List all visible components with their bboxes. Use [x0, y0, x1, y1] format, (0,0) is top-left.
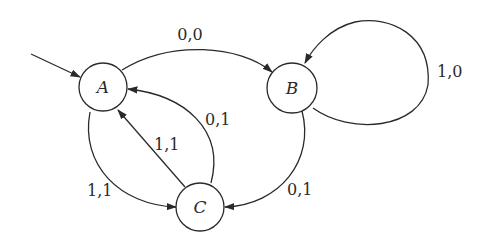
- state-a: A: [79, 63, 127, 111]
- label-a-to-c: 1,1: [87, 181, 112, 200]
- state-b: B: [267, 63, 317, 113]
- initial-arrow: [31, 54, 80, 77]
- label-b-to-c: 0,1: [287, 180, 312, 199]
- edge-a-to-b: [122, 50, 272, 72]
- label-c-to-a-outer: 0,1: [205, 110, 230, 129]
- label-b-self-loop: 1,0: [437, 62, 462, 81]
- state-a-label: A: [95, 77, 109, 97]
- state-b-label: B: [285, 78, 299, 98]
- edge-b-self-loop: [305, 21, 428, 125]
- state-c-label: C: [193, 197, 206, 217]
- label-a-to-b: 0,0: [177, 25, 202, 44]
- state-c: C: [176, 183, 224, 231]
- label-c-to-a-straight: 1,1: [154, 135, 179, 154]
- state-diagram: A B C 0,0 1,0 0,1 0,1 1,1 1,1: [0, 0, 486, 244]
